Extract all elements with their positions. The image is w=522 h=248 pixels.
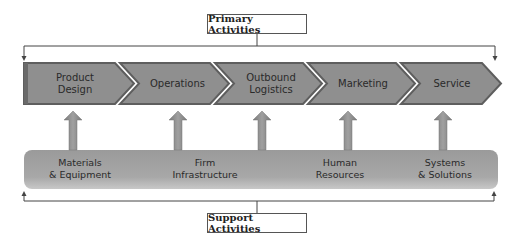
arrow-up-icon: [64, 111, 82, 150]
arrow-up-icon: [434, 111, 452, 150]
support-activity-label: Materials & Equipment: [40, 152, 120, 186]
value-chain-diagram: [0, 0, 522, 248]
primary-activity-label: Outbound Logistics: [228, 63, 314, 104]
arrow-up-icon: [169, 111, 187, 150]
arrow-up-icon: [253, 111, 271, 150]
primary-bracket: [24, 33, 495, 58]
support-activity-label: Firm Infrastructure: [160, 152, 250, 186]
primary-activity-label: Service: [412, 63, 492, 104]
arrow-up-icon: [22, 191, 27, 196]
support-activities-title: Support Activities: [207, 213, 307, 233]
chevron-left-edge: [24, 63, 28, 104]
primary-activity-label: Product Design: [30, 63, 120, 104]
arrow-up-icon: [339, 111, 357, 150]
support-activity-label: Human Resources: [300, 152, 380, 186]
support-arrows: [64, 111, 452, 150]
arrow-up-icon: [492, 191, 497, 196]
primary-activities-title: Primary Activities: [207, 14, 307, 34]
arrow-down-icon: [22, 56, 27, 61]
support-activity-label: Systems & Solutions: [400, 152, 490, 186]
support-bracket: [24, 194, 494, 213]
primary-activity-label: Operations: [135, 63, 220, 104]
primary-activity-label: Marketing: [320, 63, 406, 104]
arrow-down-icon: [493, 56, 498, 61]
